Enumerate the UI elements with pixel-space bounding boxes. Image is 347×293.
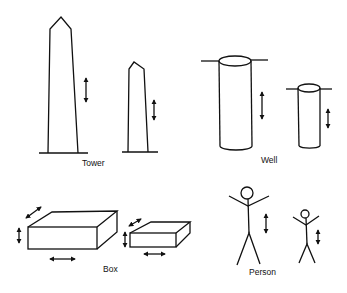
box-large — [19, 207, 117, 259]
tower-small — [122, 62, 158, 152]
box-small — [125, 219, 190, 254]
person-small — [293, 210, 319, 263]
label-person: Person — [249, 267, 276, 277]
depth-arrow-icon — [129, 219, 141, 226]
label-well: Well — [261, 155, 277, 165]
label-tower: Tower — [82, 158, 105, 168]
diagram-drawing — [0, 0, 347, 293]
depth-arrow-icon — [26, 207, 41, 218]
scaling-diagram: Tower Well Box Person — [0, 0, 347, 293]
label-box: Box — [103, 264, 118, 274]
tower-large — [39, 17, 88, 153]
person-large — [229, 187, 269, 265]
well-large — [201, 56, 268, 150]
well-small — [286, 84, 332, 148]
